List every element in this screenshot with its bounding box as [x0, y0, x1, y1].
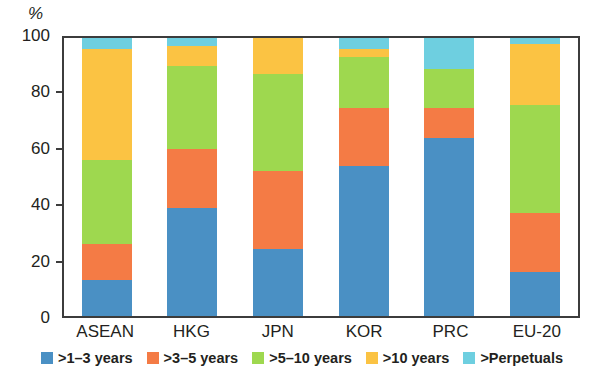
- bar-segment: [253, 38, 303, 74]
- x-axis-tick-label: KOR: [329, 322, 399, 342]
- bar-segment: [339, 57, 389, 107]
- bar-segment: [510, 213, 560, 271]
- bar-segment: [253, 74, 303, 171]
- bar-segment: [339, 38, 389, 49]
- legend-label: >Perpetuals: [480, 350, 563, 366]
- y-axis-unit-label: %: [28, 4, 44, 24]
- legend-item: >5–10 years: [252, 350, 352, 366]
- bar-segment: [510, 105, 560, 213]
- x-axis-tick-label: ASEAN: [70, 322, 140, 342]
- y-axis-tick-label: 40: [31, 195, 50, 215]
- bar-segment: [167, 208, 217, 316]
- bar-column: [167, 38, 217, 316]
- legend-swatch-icon: [463, 352, 475, 364]
- legend-swatch-icon: [147, 352, 159, 364]
- x-axis-labels: ASEANHKGJPNKORPRCEU-20: [62, 322, 580, 348]
- legend-label: >1–3 years: [58, 350, 133, 366]
- bar-segment: [424, 69, 474, 108]
- bar-segment: [82, 38, 132, 49]
- bar-segment: [424, 108, 474, 139]
- x-axis-tick-label: HKG: [156, 322, 226, 342]
- legend-item: >Perpetuals: [463, 350, 563, 366]
- bars-container: [64, 38, 578, 316]
- stacked-bar-chart: % 020406080100 ASEANHKGJPNKORPRCEU-20 >1…: [0, 0, 604, 374]
- bar-segment: [510, 44, 560, 105]
- y-axis-tick-label: 100: [22, 26, 50, 46]
- bar-segment: [167, 66, 217, 149]
- bar-column: [253, 38, 303, 316]
- bar-segment: [339, 108, 389, 166]
- bar-column: [510, 38, 560, 316]
- x-axis-tick-label: EU-20: [502, 322, 572, 342]
- legend-label: >3–5 years: [164, 350, 239, 366]
- legend-item: >10 years: [366, 350, 450, 366]
- legend-item: >1–3 years: [41, 350, 133, 366]
- bar-segment: [167, 38, 217, 46]
- y-axis-tick-label: 80: [31, 82, 50, 102]
- legend-swatch-icon: [252, 352, 264, 364]
- chart-legend: >1–3 years>3–5 years>5–10 years>10 years…: [0, 350, 604, 366]
- bar-segment: [424, 38, 474, 69]
- y-axis-tick-label: 20: [31, 252, 50, 272]
- bar-segment: [82, 160, 132, 243]
- bar-segment: [167, 149, 217, 207]
- x-axis-tick-label: PRC: [415, 322, 485, 342]
- plot-area: [62, 36, 580, 318]
- bar-segment: [424, 138, 474, 316]
- bar-segment: [339, 49, 389, 57]
- y-axis-labels: 020406080100: [0, 36, 56, 318]
- legend-item: >3–5 years: [147, 350, 239, 366]
- legend-swatch-icon: [41, 352, 53, 364]
- bar-segment: [253, 249, 303, 316]
- x-axis-tick-label: JPN: [243, 322, 313, 342]
- bar-column: [424, 38, 474, 316]
- legend-label: >10 years: [383, 350, 450, 366]
- bar-segment: [510, 272, 560, 316]
- legend-swatch-icon: [366, 352, 378, 364]
- bar-segment: [82, 280, 132, 316]
- y-axis-tick-label: 60: [31, 139, 50, 159]
- bar-segment: [253, 171, 303, 249]
- bar-segment: [167, 46, 217, 65]
- bar-column: [82, 38, 132, 316]
- legend-label: >5–10 years: [269, 350, 352, 366]
- bar-segment: [82, 244, 132, 280]
- bar-segment: [339, 166, 389, 316]
- bar-segment: [82, 49, 132, 160]
- y-axis-tick-label: 0: [41, 308, 50, 328]
- bar-column: [339, 38, 389, 316]
